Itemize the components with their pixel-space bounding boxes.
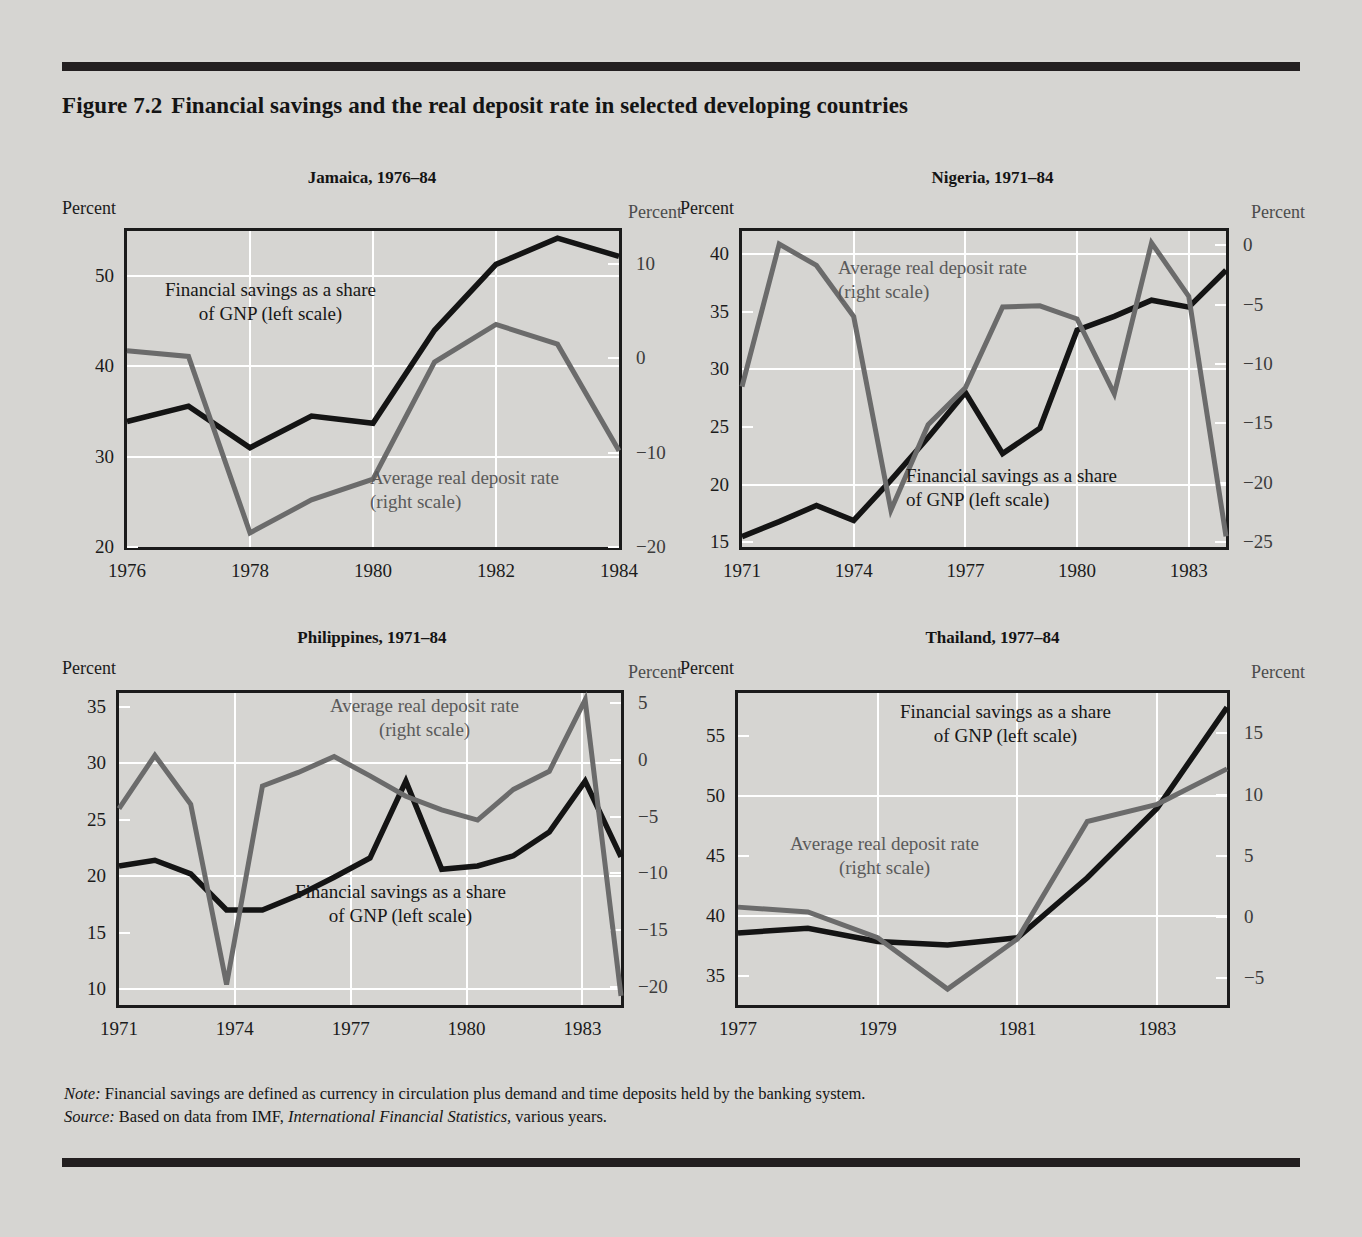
y2-axis-label: −5 xyxy=(638,806,696,828)
y2-axis-label: 5 xyxy=(638,692,696,714)
y2-axis-label: 5 xyxy=(1244,845,1302,867)
x-axis-label: 1979 xyxy=(859,1018,897,1040)
left-axis-caption-jamaica: Percent xyxy=(62,198,116,219)
y-axis-label: 25 xyxy=(54,809,106,831)
right-axis-caption-jamaica: Percent xyxy=(628,202,682,223)
x-axis-label: 1980 xyxy=(354,560,392,582)
series-label-line: Financial savings as a share xyxy=(165,278,376,302)
y-axis-label: 40 xyxy=(673,905,725,927)
y-axis-label: 15 xyxy=(677,531,729,553)
y2-axis-label: −5 xyxy=(1244,967,1302,989)
bottom-rule xyxy=(62,1158,1300,1167)
y-axis-label: 20 xyxy=(677,474,729,496)
x-axis-label: 1971 xyxy=(723,560,761,582)
y-axis-label: 45 xyxy=(673,845,725,867)
x-axis-label: 1977 xyxy=(946,560,984,582)
x-axis-label: 1982 xyxy=(477,560,515,582)
x-axis-label: 1981 xyxy=(998,1018,1036,1040)
x-axis-label: 1980 xyxy=(448,1018,486,1040)
y2-axis-label: 15 xyxy=(1244,722,1302,744)
source-label: Source: xyxy=(64,1107,115,1126)
series-label-line: (right scale) xyxy=(838,280,1027,304)
y2-axis-label: −10 xyxy=(636,442,694,464)
series-label-line: (right scale) xyxy=(370,490,559,514)
x-axis-label: 1977 xyxy=(719,1018,757,1040)
y-axis-label: 30 xyxy=(677,358,729,380)
deposit-rate-line xyxy=(119,700,621,996)
series-label-line: of GNP (left scale) xyxy=(906,488,1117,512)
deposit-series-label: Average real deposit rate(right scale) xyxy=(790,832,979,881)
y-axis-label: 40 xyxy=(62,355,114,377)
series-label-line: Financial savings as a share xyxy=(906,464,1117,488)
savings-series-label: Financial savings as a shareof GNP (left… xyxy=(906,464,1117,513)
left-axis-caption-thailand: Percent xyxy=(680,658,734,679)
y2-axis-label: −20 xyxy=(1243,472,1301,494)
savings-line xyxy=(127,238,619,447)
top-rule xyxy=(62,62,1300,71)
savings-series-label: Financial savings as a shareof GNP (left… xyxy=(165,278,376,327)
x-axis-label: 1974 xyxy=(835,560,873,582)
deposit-series-label: Average real deposit rate(right scale) xyxy=(330,694,519,743)
source-line: Source: Based on data from IMF, Internat… xyxy=(64,1105,1244,1128)
y-axis-label: 35 xyxy=(54,696,106,718)
figure-number: Figure 7.2 xyxy=(62,93,162,118)
x-axis-label: 1971 xyxy=(100,1018,138,1040)
source-text-a: Based on data from IMF, xyxy=(115,1107,288,1126)
deposit-series-label: Average real deposit rate(right scale) xyxy=(370,466,559,515)
source-text-b: various years. xyxy=(511,1107,607,1126)
y-axis-label: 35 xyxy=(673,965,725,987)
series-label-line: Average real deposit rate xyxy=(370,466,559,490)
x-axis-label: 1984 xyxy=(600,560,638,582)
x-axis-label: 1977 xyxy=(332,1018,370,1040)
y2-axis-label: 0 xyxy=(638,749,696,771)
x-axis-label: 1974 xyxy=(216,1018,254,1040)
panel-title-thailand: Thailand, 1977–84 xyxy=(680,628,1305,648)
right-axis-caption-nigeria: Percent xyxy=(1251,202,1305,223)
series-label-line: (right scale) xyxy=(790,856,979,880)
y2-axis-label: 0 xyxy=(1243,234,1301,256)
y-axis-label: 15 xyxy=(54,922,106,944)
y-axis-label: 55 xyxy=(673,725,725,747)
right-axis-caption-thailand: Percent xyxy=(1251,662,1305,683)
y-axis-label: 30 xyxy=(54,752,106,774)
panel-title-nigeria: Nigeria, 1971–84 xyxy=(680,168,1305,188)
deposit-series-label: Average real deposit rate(right scale) xyxy=(838,256,1027,305)
left-axis-caption-nigeria: Percent xyxy=(680,198,734,219)
savings-series-label: Financial savings as a shareof GNP (left… xyxy=(295,880,506,929)
y-axis-label: 50 xyxy=(673,785,725,807)
figure-note: Note: Financial savings are defined as c… xyxy=(64,1082,1244,1129)
figure-title-text: Financial savings and the real deposit r… xyxy=(171,93,908,118)
x-axis-label: 1980 xyxy=(1058,560,1096,582)
y-axis-label: 40 xyxy=(677,243,729,265)
y2-axis-label: 10 xyxy=(1244,784,1302,806)
y-axis-label: 20 xyxy=(54,865,106,887)
y2-axis-label: −25 xyxy=(1243,531,1301,553)
series-label-line: of GNP (left scale) xyxy=(900,724,1111,748)
y2-axis-label: −15 xyxy=(1243,412,1301,434)
figure-title: Figure 7.2Financial savings and the real… xyxy=(62,93,1302,119)
x-axis-label: 1983 xyxy=(1138,1018,1176,1040)
x-axis-label: 1983 xyxy=(563,1018,601,1040)
series-label-line: Financial savings as a share xyxy=(295,880,506,904)
x-axis-label: 1978 xyxy=(231,560,269,582)
series-label-line: of GNP (left scale) xyxy=(165,302,376,326)
right-axis-caption-philippines: Percent xyxy=(628,662,682,683)
series-label-line: Average real deposit rate xyxy=(790,832,979,856)
y-axis-label: 10 xyxy=(54,978,106,1000)
series-label-line: (right scale) xyxy=(330,718,519,742)
panel-title-jamaica: Jamaica, 1976–84 xyxy=(62,168,682,188)
y2-axis-label: 0 xyxy=(1244,906,1302,928)
series-label-line: Financial savings as a share xyxy=(900,700,1111,724)
y-axis-label: 25 xyxy=(677,416,729,438)
y2-axis-label: −5 xyxy=(1243,294,1301,316)
left-axis-caption-philippines: Percent xyxy=(62,658,116,679)
figure-page: Figure 7.2Financial savings and the real… xyxy=(0,0,1362,1237)
note-text: Financial savings are defined as currenc… xyxy=(101,1084,866,1103)
note-line: Note: Financial savings are defined as c… xyxy=(64,1082,1244,1105)
panel-title-philippines: Philippines, 1971–84 xyxy=(62,628,682,648)
y-axis-label: 50 xyxy=(62,265,114,287)
note-label: Note: xyxy=(64,1084,101,1103)
y-axis-label: 20 xyxy=(62,536,114,558)
series-label-line: Average real deposit rate xyxy=(330,694,519,718)
savings-series-label: Financial savings as a shareof GNP (left… xyxy=(900,700,1111,749)
